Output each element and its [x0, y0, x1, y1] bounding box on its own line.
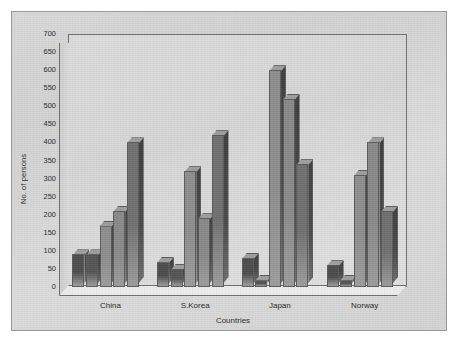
bar-face — [255, 280, 267, 287]
bar-face — [127, 142, 139, 287]
plot-area — [59, 34, 407, 296]
x-axis-tick-label: S.Korea — [153, 301, 238, 310]
bars-layer — [68, 34, 407, 287]
y-axis-tick-label: 400 — [43, 138, 56, 146]
bar — [184, 171, 196, 287]
bar-face — [340, 280, 352, 287]
chart-screenshot: No. of persons 0501001502002503003504004… — [0, 0, 460, 345]
bar-face — [242, 258, 254, 287]
bar-face — [86, 254, 98, 287]
bar-side — [308, 160, 313, 283]
bar-face — [72, 254, 84, 287]
bar-side — [139, 138, 144, 283]
bar — [100, 226, 112, 287]
bar — [367, 142, 379, 287]
y-axis-tick-label: 600 — [43, 66, 56, 74]
bar-group-skorea — [157, 34, 225, 287]
bar — [327, 265, 339, 287]
bar-group-japan — [242, 34, 310, 287]
bar-group-norway — [327, 34, 395, 287]
bar-face — [296, 164, 308, 287]
bar-face — [157, 262, 169, 287]
bar-face — [367, 142, 379, 287]
x-axis-tick-labels: ChinaS.KoreaJapanNorway — [59, 301, 407, 313]
y-axis-tick-label: 550 — [43, 84, 56, 92]
y-axis-tick-label: 200 — [43, 211, 56, 219]
bar-face — [327, 265, 339, 287]
bar-face — [113, 211, 125, 287]
bar — [242, 258, 254, 287]
bar — [113, 211, 125, 287]
y-axis-tick-label: 650 — [43, 48, 56, 56]
bar-face — [212, 135, 224, 287]
bar — [283, 99, 295, 287]
bar — [127, 142, 139, 287]
figure-frame: No. of persons 0501001502002503003504004… — [11, 11, 447, 331]
x-axis-title: Countries — [59, 316, 407, 325]
bar-face — [171, 269, 183, 287]
y-axis-tick-labels: 0501001502002503003504004505005506006507… — [30, 34, 56, 296]
y-axis-tick-label: 150 — [43, 229, 56, 237]
bar — [157, 262, 169, 287]
bar — [255, 280, 267, 287]
x-axis-tick-label: Norway — [322, 301, 407, 310]
bar — [269, 70, 281, 287]
bar — [296, 164, 308, 287]
y-axis-tick-label: 0 — [52, 283, 56, 291]
y-axis-tick-label: 450 — [43, 120, 56, 128]
x-axis-tick-label: Japan — [238, 301, 323, 310]
bar — [72, 254, 84, 287]
y-axis-tick-label: 100 — [43, 247, 56, 255]
y-axis-tick-label: 700 — [43, 30, 56, 38]
bar — [354, 175, 366, 287]
x-axis-tick-label: China — [68, 301, 153, 310]
bar — [381, 211, 393, 287]
y-axis-tick-label: 350 — [43, 157, 56, 165]
bar — [86, 254, 98, 287]
bar-face — [283, 99, 295, 287]
bar-face — [354, 175, 366, 287]
bar-side — [224, 131, 229, 283]
bar — [171, 269, 183, 287]
bar-face — [100, 226, 112, 287]
bar-face — [381, 211, 393, 287]
y-axis-tick-label: 300 — [43, 175, 56, 183]
bar-group-china — [72, 34, 140, 287]
bar-face — [269, 70, 281, 287]
y-axis-title: No. of persons — [19, 124, 28, 234]
bar-face — [198, 218, 210, 287]
bar — [212, 135, 224, 287]
bar-face — [184, 171, 196, 287]
bar — [340, 280, 352, 287]
y-axis-tick-label: 250 — [43, 193, 56, 201]
bar-side — [393, 207, 398, 283]
y-axis-tick-label: 50 — [48, 265, 56, 273]
bar — [198, 218, 210, 287]
y-axis-tick-label: 500 — [43, 102, 56, 110]
